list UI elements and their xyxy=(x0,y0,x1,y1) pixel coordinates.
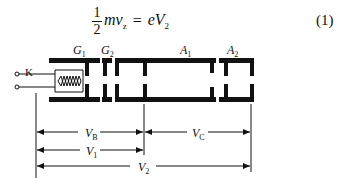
grid2-electrode xyxy=(103,63,107,76)
anode1-aperture xyxy=(143,63,147,76)
tube-body xyxy=(49,58,254,102)
anode2-label: A2 xyxy=(226,43,238,59)
vb-label: VB xyxy=(85,126,98,142)
grid2-label: G2 xyxy=(101,43,114,59)
v1-label: V1 xyxy=(86,144,97,160)
electron-gun-diagram: K G1 G2 A1 A2 VB VC V1 V2 xyxy=(0,0,351,184)
cathode-label: K xyxy=(25,66,33,78)
anode1-right-wall xyxy=(210,63,214,73)
anode1-label: A1 xyxy=(179,43,191,59)
anode2-electrode xyxy=(224,63,228,76)
v2-label: V2 xyxy=(138,160,149,176)
anode1-left-wall xyxy=(115,63,119,76)
terminal-icon xyxy=(15,72,19,76)
terminal-icon xyxy=(15,85,19,89)
grid1-electrode xyxy=(85,63,89,76)
vc-label: VC xyxy=(192,126,205,142)
grid1-label: G1 xyxy=(73,43,86,59)
